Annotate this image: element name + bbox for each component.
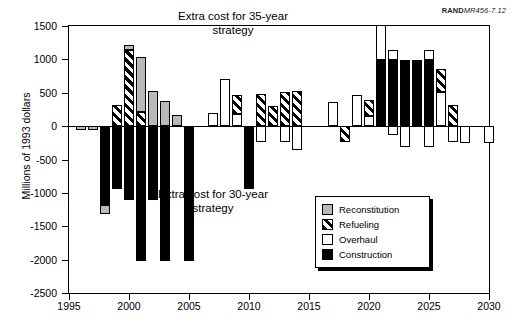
bar-segment-overhaul: [424, 50, 433, 60]
bar-segment-refueling: [436, 69, 445, 93]
bar-segment-refueling: [136, 112, 145, 126]
bar-segment-reconstitution: [76, 126, 85, 130]
y-tick: [62, 260, 69, 261]
legend: Reconstitution Refueling Overhaul Constr…: [315, 196, 430, 268]
x-tick: [249, 293, 250, 300]
annotation-35-year: Extra cost for 35-year strategy: [128, 10, 338, 37]
x-tick: [129, 293, 130, 300]
y-tick: [62, 26, 69, 27]
legend-swatch-refueling: [322, 219, 333, 230]
legend-swatch-construction: [322, 249, 333, 260]
legend-label-construction: Construction: [339, 249, 392, 260]
legend-swatch-overhaul: [322, 234, 333, 245]
x-tick-label: 1995: [57, 300, 80, 312]
y-tick-label: -1500: [30, 220, 57, 232]
source-credit: RANDMR456-7.12: [442, 6, 506, 15]
legend-item-refueling: Refueling: [322, 217, 423, 232]
bar-segment-construction: [424, 60, 433, 126]
bar-segment-overhaul: [328, 102, 337, 126]
bar-segment-overhaul: [364, 116, 373, 126]
legend-swatch-reconstitution: [322, 204, 333, 215]
bar-segment-construction: [412, 60, 421, 126]
bar-segment-reconstitution: [172, 115, 181, 126]
bar-segment-refueling: [292, 91, 301, 126]
x-tick-label: 2025: [417, 300, 440, 312]
legend-label-reconstitution: Reconstitution: [339, 204, 399, 215]
x-tick-label: 2010: [237, 300, 260, 312]
bar-segment-refueling: [448, 105, 457, 126]
legend-label-overhaul: Overhaul: [339, 234, 378, 245]
bar-segment-overhaul: [232, 114, 241, 126]
x-tick-label: 2030: [477, 300, 500, 312]
legend-item-reconstitution: Reconstitution: [322, 202, 423, 217]
bar-segment-overhaul: [448, 126, 457, 142]
x-tick: [69, 293, 70, 300]
y-tick-label: 1000: [34, 53, 57, 65]
bar-segment-overhaul: [280, 126, 289, 142]
bar-segment-overhaul: [460, 126, 469, 143]
y-axis-title: Millions of 1993 dollars: [20, 66, 32, 226]
x-tick: [189, 293, 190, 300]
y-tick: [62, 59, 69, 60]
bar-segment-reconstitution: [124, 45, 133, 50]
legend-item-overhaul: Overhaul: [322, 232, 423, 247]
y-tick: [62, 93, 69, 94]
bar-segment-refueling: [364, 100, 373, 116]
bar-segment-refueling: [280, 92, 289, 126]
chart-figure: RANDMR456-7.12 Millions of 1993 dollars …: [0, 0, 514, 332]
bar-segment-overhaul: [292, 126, 301, 150]
y-tick: [62, 193, 69, 194]
y-tick-label: -2500: [30, 287, 57, 299]
bar-segment-construction: [112, 126, 121, 188]
x-tick-label: 2020: [357, 300, 380, 312]
y-tick: [62, 226, 69, 227]
y-tick-label: 0: [51, 120, 57, 132]
bar-segment-reconstitution: [148, 91, 157, 126]
bar-segment-overhaul: [388, 126, 397, 135]
credit-report-id: MR456-7.12: [464, 6, 506, 15]
bar-segment-refueling: [232, 95, 241, 114]
y-tick-label: 1500: [34, 20, 57, 32]
legend-item-construction: Construction: [322, 247, 423, 262]
bar-segment-overhaul: [400, 126, 409, 147]
bar-segment-overhaul: [484, 126, 493, 143]
y-tick-label: -1000: [30, 187, 57, 199]
bar-segment-construction: [244, 126, 253, 188]
x-tick-label: 2005: [177, 300, 200, 312]
x-tick-label: 2015: [297, 300, 320, 312]
bar-segment-refueling: [112, 105, 121, 126]
bar-segment-refueling: [124, 50, 133, 126]
bar-segment-overhaul: [424, 126, 433, 147]
bar-segment-overhaul: [256, 126, 265, 142]
bar-segment-overhaul: [352, 95, 361, 126]
legend-label-refueling: Refueling: [339, 219, 379, 230]
bar-segment-reconstitution: [160, 101, 169, 126]
bar-segment-refueling: [268, 106, 277, 126]
y-tick: [62, 293, 69, 294]
x-tick: [429, 293, 430, 300]
bar-segment-reconstitution: [136, 57, 145, 111]
bar-segment-overhaul: [220, 79, 229, 126]
bar-segment-overhaul: [376, 25, 385, 60]
y-tick: [62, 160, 69, 161]
bar-segment-reconstitution: [88, 126, 97, 130]
bar-segment-refueling: [340, 126, 349, 142]
x-tick: [369, 293, 370, 300]
y-tick-label: -2000: [30, 254, 57, 266]
bar-segment-construction: [400, 60, 409, 126]
x-tick-label: 2000: [117, 300, 140, 312]
credit-rand: RAND: [442, 6, 464, 15]
bar-segment-construction: [376, 60, 385, 126]
y-tick-label: -500: [36, 154, 57, 166]
y-tick-label: 500: [39, 87, 57, 99]
x-tick: [309, 293, 310, 300]
x-tick: [489, 293, 490, 300]
bar-segment-construction: [388, 60, 397, 126]
bar-segment-refueling: [256, 94, 265, 126]
bar-segment-overhaul: [388, 50, 397, 60]
bar-segment-overhaul: [208, 113, 217, 126]
y-tick: [62, 126, 69, 127]
bar-segment-overhaul: [436, 92, 445, 126]
annotation-30-year: Extra cost for 30-year strategy: [108, 188, 318, 215]
